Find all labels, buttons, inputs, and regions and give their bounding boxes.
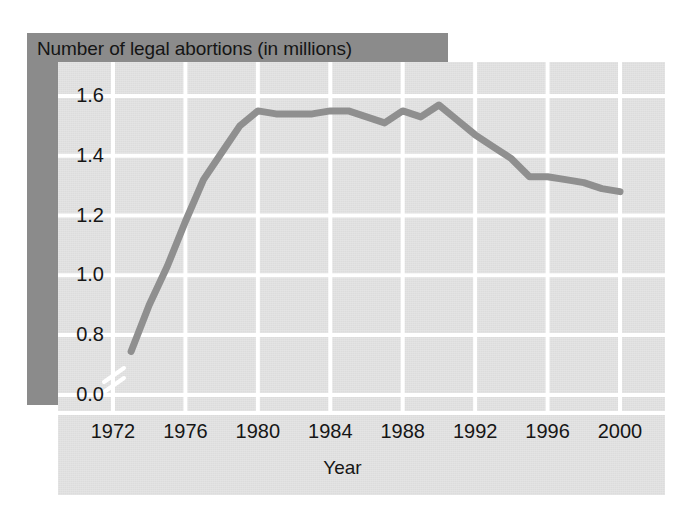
y-tick-label: 0.8 (58, 324, 104, 344)
x-tick-label: 1972 (81, 421, 145, 441)
y-tick-label: 1.6 (58, 85, 104, 105)
y-tick-label: 1.4 (58, 145, 104, 165)
y-tick-label: 0.0 (58, 384, 104, 404)
y-tick-label: 1.0 (58, 264, 104, 284)
chart-figure: Number of legal abortions (in millions) … (0, 0, 685, 512)
gridlines-horizontal (58, 96, 665, 413)
x-tick-label: 1992 (443, 421, 507, 441)
x-tick-label: 1996 (516, 421, 580, 441)
x-tick-label: 1976 (153, 421, 217, 441)
x-tick-label: 1988 (371, 421, 435, 441)
y-tick-label: 1.2 (58, 205, 104, 225)
x-tick-label: 2000 (588, 421, 652, 441)
x-tick-label: 1980 (226, 421, 290, 441)
x-tick-label: 1984 (298, 421, 362, 441)
x-axis-title: Year (0, 458, 685, 477)
